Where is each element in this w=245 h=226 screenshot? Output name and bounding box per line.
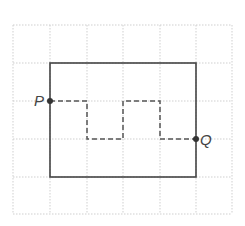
point-p [47, 98, 53, 104]
label-q: Q [200, 131, 212, 148]
label-p: P [34, 92, 44, 109]
point-q [193, 136, 199, 142]
grid-diagram: P Q [0, 0, 245, 226]
